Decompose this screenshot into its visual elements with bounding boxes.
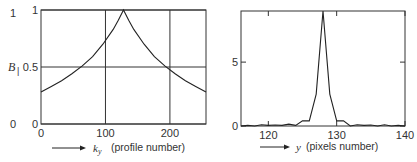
outer-ytick-1: 1 [10, 7, 16, 19]
y-axis-label-sub: | [17, 66, 19, 76]
y-tick-label: 5 [232, 56, 238, 68]
right-series-line [241, 11, 405, 126]
arrowhead-icon [80, 146, 86, 151]
y-tick-label: 0 [232, 120, 238, 132]
left-x-axis-caption: ky (profile number) [52, 141, 185, 156]
outer-ytick-0: 0 [10, 118, 16, 130]
left-series-line [41, 10, 206, 92]
left-chart: 1 B | 0 00.51 0100200 ky (profile number… [8, 4, 206, 156]
figure-canvas: 1 B | 0 00.51 0100200 ky (profile number… [0, 0, 417, 162]
right-chart: 05 120130140 y (pixels number) [232, 11, 414, 153]
arrowhead-icon [284, 145, 290, 150]
left-grid [41, 10, 206, 124]
x-tick-label: 0 [38, 127, 44, 139]
x-axis-label: (profile number) [111, 141, 185, 153]
x-axis-symbol: ky [93, 142, 102, 156]
left-y-tick-labels: 00.51 [23, 4, 38, 130]
y-tick-label: 1 [32, 4, 38, 16]
x-axis-label: (pixels number) [306, 140, 378, 152]
figure: 1 B | 0 00.51 0100200 ky (profile number… [0, 0, 417, 162]
x-tick-label: 120 [259, 129, 277, 141]
right-y-tick-labels: 05 [232, 56, 238, 132]
right-ticks [241, 11, 405, 126]
y-axis-label: B [8, 60, 16, 74]
x-tick-label: 100 [96, 127, 114, 139]
left-x-tick-labels: 0100200 [38, 127, 179, 139]
y-tick-label: 0.5 [23, 61, 38, 73]
x-axis-symbol: y [295, 141, 301, 153]
x-tick-label: 200 [161, 127, 179, 139]
right-plot-frame [241, 11, 405, 126]
x-tick-label: 140 [396, 129, 414, 141]
right-x-axis-caption: y (pixels number) [260, 140, 378, 153]
